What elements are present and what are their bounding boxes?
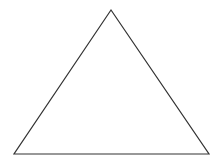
diagram-canvas: [0, 0, 222, 165]
triangle-figure: [0, 0, 222, 165]
triangle-shape: [14, 10, 209, 154]
